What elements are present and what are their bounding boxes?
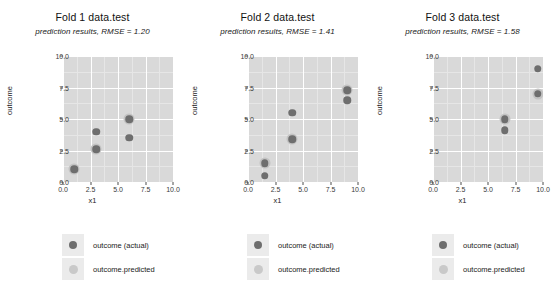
x-tick-mark — [358, 182, 359, 185]
y-tick-label: 5.0 — [220, 116, 254, 123]
data-point-actual — [70, 166, 78, 174]
y-tick-label: 2.5 — [35, 147, 69, 154]
legend-item[interactable]: outcome.predicted — [185, 257, 370, 281]
x-tick-label: 5.0 — [288, 186, 318, 193]
plot-panel — [433, 56, 543, 182]
gridline-vertical — [516, 56, 517, 182]
y-tick-label: 5.0 — [35, 116, 69, 123]
x-tick-mark — [303, 182, 304, 185]
data-point-actual — [534, 65, 542, 73]
x-tick-label: 10.0 — [528, 186, 555, 193]
x-tick-mark — [63, 182, 64, 185]
y-tick-mark — [245, 150, 248, 151]
facet-panel-1: Fold 1 data.testprediction results, RMSE… — [0, 0, 185, 287]
x-tick-mark — [90, 182, 91, 185]
predicted-dot-icon — [69, 265, 78, 274]
gridline-vertical — [461, 56, 462, 182]
predicted-dot-icon — [254, 265, 263, 274]
data-point-actual — [261, 159, 269, 167]
predicted-dot-icon — [439, 265, 448, 274]
data-point-actual — [288, 109, 296, 117]
gridline-vertical — [91, 56, 92, 182]
facet-panel-2: Fold 2 data.testprediction results, RMSE… — [185, 0, 370, 287]
data-point-actual — [261, 172, 269, 180]
x-tick-label: 7.5 — [316, 186, 346, 193]
gridline-vertical — [276, 56, 277, 182]
panel-subtitle: prediction results, RMSE = 1.58 — [370, 27, 555, 36]
data-point-actual — [288, 135, 296, 143]
gridline-vertical — [146, 56, 147, 182]
y-tick-label: 7.5 — [405, 84, 439, 91]
x-tick-mark — [173, 182, 174, 185]
legend-item[interactable]: outcome (actual) — [0, 233, 185, 257]
legend-label: outcome (actual) — [463, 241, 519, 250]
x-tick-label: 5.0 — [103, 186, 133, 193]
data-point-actual — [343, 96, 351, 104]
legend-key — [432, 258, 454, 280]
y-tick-label: 0.0 — [405, 179, 439, 186]
data-point-actual — [125, 134, 133, 142]
x-tick-label: 2.5 — [261, 186, 291, 193]
data-point-actual — [501, 127, 509, 135]
y-tick-label: 10.0 — [35, 53, 69, 60]
y-tick-mark — [60, 56, 63, 57]
y-axis-label: outcome — [375, 71, 384, 131]
legend-key — [247, 234, 269, 256]
y-tick-mark — [245, 119, 248, 120]
y-tick-mark — [430, 150, 433, 151]
plot-panel — [63, 56, 173, 182]
gridline-vertical — [118, 56, 119, 182]
x-tick-label: 2.5 — [446, 186, 476, 193]
actual-dot-icon — [69, 241, 77, 249]
legend-item[interactable]: outcome (actual) — [370, 233, 555, 257]
x-tick-mark — [275, 182, 276, 185]
gridline-vertical — [303, 56, 304, 182]
x-tick-mark — [460, 182, 461, 185]
y-tick-label: 2.5 — [220, 147, 254, 154]
y-axis-label: outcome — [5, 71, 14, 131]
legend: outcome (actual)outcome.predicted — [0, 233, 185, 281]
data-point-actual — [92, 145, 100, 153]
panel-subtitle: prediction results, RMSE = 1.41 — [185, 27, 370, 36]
y-tick-mark — [60, 150, 63, 151]
legend-key — [432, 234, 454, 256]
x-tick-mark — [488, 182, 489, 185]
legend-item[interactable]: outcome (actual) — [185, 233, 370, 257]
legend-key — [247, 258, 269, 280]
y-tick-label: 2.5 — [405, 147, 439, 154]
y-tick-label: 7.5 — [35, 84, 69, 91]
y-tick-mark — [245, 87, 248, 88]
x-tick-label: 10.0 — [158, 186, 188, 193]
plot-panel — [248, 56, 358, 182]
panel-subtitle: prediction results, RMSE = 1.20 — [0, 27, 185, 36]
actual-dot-icon — [254, 241, 262, 249]
y-tick-label: 0.0 — [220, 179, 254, 186]
data-point-actual — [343, 86, 351, 94]
y-tick-mark — [60, 119, 63, 120]
x-tick-label: 0.0 — [418, 186, 448, 193]
y-tick-mark — [430, 87, 433, 88]
gridline-vertical — [488, 56, 489, 182]
x-tick-mark — [248, 182, 249, 185]
gridline-vertical — [331, 56, 332, 182]
legend-key — [62, 258, 84, 280]
data-point-actual — [534, 90, 542, 98]
legend: outcome (actual)outcome.predicted — [370, 233, 555, 281]
y-axis-label: outcome — [190, 71, 199, 131]
legend-item[interactable]: outcome.predicted — [0, 257, 185, 281]
legend-label: outcome.predicted — [93, 265, 155, 274]
actual-dot-icon — [439, 241, 447, 249]
panel-title: Fold 1 data.test — [0, 11, 185, 23]
x-axis-label: x1 — [370, 196, 555, 205]
y-tick-mark — [430, 56, 433, 57]
x-tick-label: 0.0 — [233, 186, 263, 193]
x-axis-label: x1 — [185, 196, 370, 205]
legend-label: outcome.predicted — [278, 265, 340, 274]
y-tick-label: 10.0 — [405, 53, 439, 60]
y-tick-label: 7.5 — [220, 84, 254, 91]
y-tick-label: 5.0 — [405, 116, 439, 123]
data-point-actual — [92, 128, 100, 136]
legend-item[interactable]: outcome.predicted — [370, 257, 555, 281]
x-tick-label: 7.5 — [501, 186, 531, 193]
x-tick-label: 7.5 — [131, 186, 161, 193]
